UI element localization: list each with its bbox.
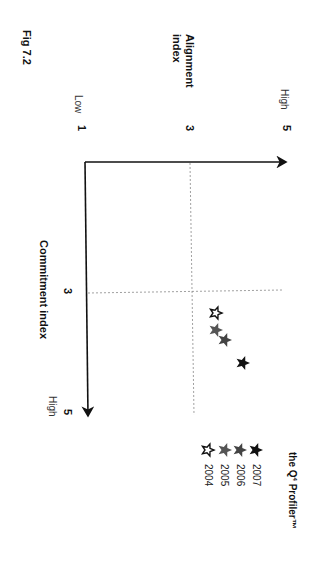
alignment-high-label: High [279,89,290,110]
legend-star-2005-icon [219,443,232,457]
legend-label-2007: 2007 [251,464,262,486]
data-point-2006 [219,333,232,347]
legend-star-2006-icon [234,443,247,457]
branding-suffix: Profiler™ [287,481,298,529]
commitment-tick-3: 3 [62,288,74,294]
alignment-low-label: Low [73,95,84,113]
alignment-tick-3: 3 [184,125,196,131]
legend-label-2005: 2005 [219,464,230,486]
commitment-axis [85,162,88,416]
alignment-tick-5: 5 [281,125,293,131]
commitment-tick-5: 5 [62,409,74,415]
commitment-high-label: High [47,396,58,417]
commitment-3-reference-line [88,290,283,293]
alignment-tick-1: 1 [76,125,88,131]
commitment-axis-title: Commitment index [38,240,50,339]
branding-prefix: the Q [287,452,298,478]
legend-label-2004: 2004 [203,464,214,486]
legend-label-2006: 2006 [235,464,246,486]
alignment-3-reference-line [190,163,194,415]
data-point-2005 [210,323,223,337]
data-point-2004 [211,307,223,319]
q4-profiler-branding: the Q4 Profiler™ [287,452,298,529]
alignment-axis-title-line1: Alignment [184,34,196,88]
alignment-axis-title-line2: index [171,34,183,63]
legend-star-2004-icon [203,444,215,456]
data-point-2007 [237,356,250,370]
figure-label: Fig 7.2 [21,30,33,65]
legend-star-2007-icon [250,443,263,457]
